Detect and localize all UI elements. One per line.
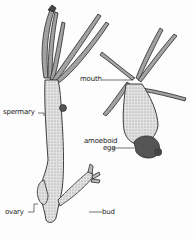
egg-lobe: [154, 148, 162, 156]
left-hydra-tentacles: [42, 5, 109, 84]
label-egg: egg: [103, 145, 116, 152]
label-ovary: ovary: [5, 209, 24, 216]
hydra-diagram: spermary ovary bud mouth amoeboid egg: [0, 0, 193, 239]
label-bud: bud: [102, 209, 115, 216]
label-spermary: spermary: [3, 109, 35, 116]
hydra-illustration: [0, 0, 193, 239]
spermary-bump: [60, 105, 67, 112]
label-mouth: mouth: [80, 76, 102, 83]
ovary-leader: [28, 204, 38, 212]
spermary-leader: [38, 113, 44, 116]
bud-shape: [58, 164, 100, 206]
